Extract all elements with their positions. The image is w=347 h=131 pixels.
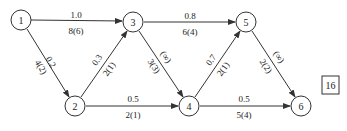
edge-2-3 bbox=[81, 31, 127, 97]
edge-1-3-capacity: 8(6) bbox=[69, 26, 84, 36]
edge-5-6-capacity: 2(2) bbox=[258, 57, 275, 75]
node-5: 5 bbox=[236, 12, 256, 32]
node-3: 3 bbox=[123, 12, 143, 32]
edge-3-5-cost: 0.8 bbox=[184, 11, 196, 21]
edge-2-4-capacity: 2(1) bbox=[126, 110, 141, 120]
edge-3-4-capacity: 3(3) bbox=[146, 57, 163, 75]
node-6: 6 bbox=[291, 96, 311, 116]
node-2-label: 2 bbox=[73, 101, 78, 112]
network-diagram: 1.0 8(6) 0.2 4(2) 0.3 2(1) (∞) 3(3) 0.8 … bbox=[0, 0, 347, 131]
node-3-label: 3 bbox=[131, 17, 136, 28]
edge-3-4 bbox=[139, 31, 183, 97]
node-6-label: 6 bbox=[299, 101, 304, 112]
edge-3-5-capacity: 6(4) bbox=[183, 27, 198, 37]
node-1-label: 1 bbox=[19, 15, 24, 26]
edge-2-4-cost: 0.5 bbox=[127, 94, 139, 104]
edge-1-3-cost: 1.0 bbox=[70, 10, 82, 20]
edge-4-5 bbox=[195, 31, 240, 97]
node-2: 2 bbox=[65, 96, 85, 116]
node-4-label: 4 bbox=[187, 101, 192, 112]
edge-5-6 bbox=[252, 31, 295, 97]
edge-5-6-cost: (∞) bbox=[271, 49, 286, 65]
node-4: 4 bbox=[179, 96, 199, 116]
edge-1-3 bbox=[31, 20, 122, 21]
figure-number: 16 bbox=[326, 80, 336, 91]
figure-number-box: 16 bbox=[322, 76, 339, 94]
edge-2-3-cost: 0.3 bbox=[90, 52, 105, 67]
edge-3-4-cost: (∞) bbox=[158, 49, 173, 65]
node-5-label: 5 bbox=[244, 17, 249, 28]
edge-2-3-capacity: 2(1) bbox=[101, 60, 118, 78]
edge-4-5-capacity: 2(1) bbox=[215, 60, 232, 78]
edge-4-6-capacity: 5(4) bbox=[237, 110, 252, 120]
node-1: 1 bbox=[11, 10, 31, 30]
edge-4-6-cost: 0.5 bbox=[238, 94, 250, 104]
